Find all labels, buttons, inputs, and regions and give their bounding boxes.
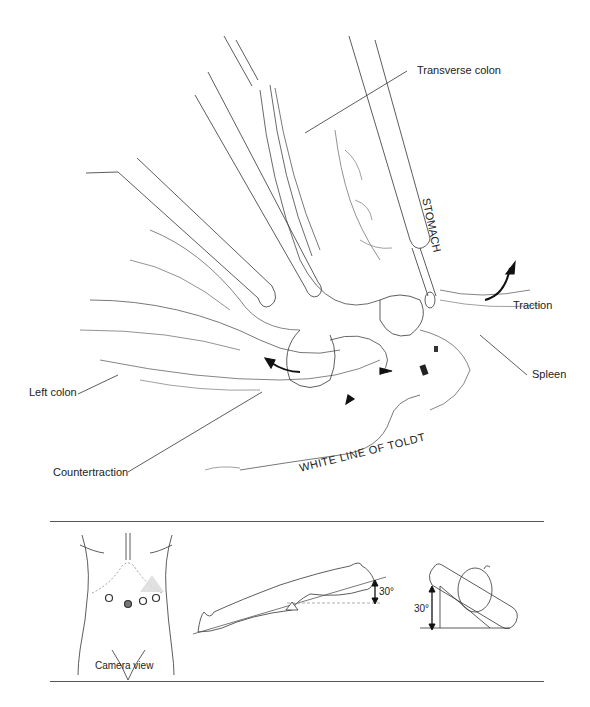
target-area-highlight (140, 575, 164, 592)
top-divider (50, 521, 544, 522)
angle-indicator-side (372, 580, 378, 604)
angle-indicator-front (429, 586, 435, 630)
trocar-ports (106, 595, 160, 608)
instrument-shaft-3 (224, 36, 258, 86)
instrument-shaft-1 (86, 158, 276, 307)
small-arrow-2 (346, 395, 354, 404)
label-transverse-colon: Transverse colon (417, 64, 501, 76)
leader-left-colon (78, 375, 118, 394)
label-traction: Traction (513, 299, 552, 311)
side-view-patient (193, 563, 386, 634)
label-angle-front: 30° (414, 603, 429, 614)
countertraction-arrow (270, 362, 300, 372)
caption-camera-view: Camera view (95, 660, 153, 671)
front-view-patient (420, 564, 517, 629)
instrument-shaft-4 (349, 36, 436, 308)
main-illustration (0, 0, 590, 500)
label-left-colon: Left colon (29, 386, 77, 398)
label-spleen: Spleen (532, 368, 566, 380)
small-arrow-1 (380, 368, 392, 374)
torso-camera-view (78, 533, 174, 680)
label-countertraction: Countertraction (53, 466, 128, 478)
label-angle-side: 30° (379, 586, 394, 597)
instrument-shaft-2 (195, 72, 322, 297)
leader-countertraction (128, 392, 262, 472)
leader-transverse-colon (305, 71, 407, 133)
leader-spleen (480, 335, 527, 375)
bottom-divider (50, 681, 544, 682)
